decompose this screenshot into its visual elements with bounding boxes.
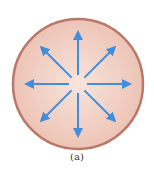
figure-caption: (a) bbox=[0, 151, 154, 162]
charged-sphere-diagram bbox=[0, 0, 154, 174]
